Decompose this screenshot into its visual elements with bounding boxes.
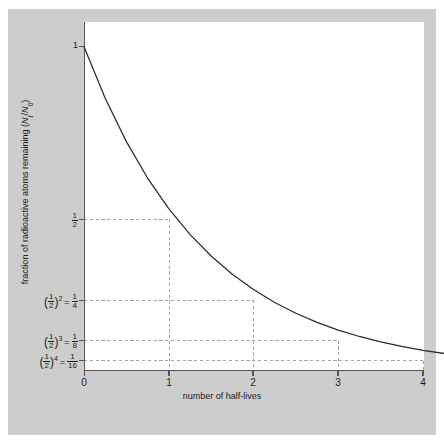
fraction-one-quarter: 1 4 [72, 293, 78, 310]
y-axis-title: fraction of radioactive atoms remaining … [20, 27, 32, 357]
figure-canvas: 1 1 2 ( 1 2 ) 2 = 1 4 ( 1 2 ) 3 = 1 8 [0, 0, 444, 444]
y-tick-label-sixteenth: ( 1 2 ) 4 = 1 16 [0, 353, 78, 370]
y-tick-marks [79, 47, 84, 361]
x-tick-label-1: 1 [157, 377, 181, 388]
y-tick-label-eighth: ( 1 2 ) 3 = 1 8 [0, 333, 78, 350]
fraction-base-2: 1 2 [48, 293, 54, 310]
fraction-base-3: 1 2 [48, 333, 54, 350]
equals-sign-4: = [58, 357, 67, 367]
y-axis-title-text: fraction of radioactive atoms remaining … [20, 124, 30, 284]
y-axis-title-N-t: N [20, 118, 30, 125]
x-tick-marks [85, 371, 424, 376]
y-tick-label-quarter: ( 1 2 ) 2 = 1 4 [0, 293, 78, 310]
equals-sign-3: = [62, 337, 71, 347]
exponent-2: 2 [58, 295, 62, 302]
decay-curve [84, 47, 444, 354]
x-tick-label-0: 0 [72, 377, 96, 388]
x-axis-title: number of half-lives [0, 391, 444, 401]
y-tick-label-1: 1 [0, 40, 78, 50]
fraction-one-eighth: 1 8 [72, 333, 78, 350]
y-axis-title-sub-t: t [27, 116, 34, 118]
y-axis-title-N-0: N [20, 107, 30, 114]
exponent-3: 3 [58, 335, 62, 342]
fraction-base-4: 1 2 [43, 353, 49, 370]
y-tick-label-half: 1 2 [0, 212, 78, 229]
axes [84, 22, 424, 371]
y-axis-title-sub-0: 0 [27, 103, 34, 107]
x-tick-label-3: 3 [326, 377, 350, 388]
gridlines [84, 219, 423, 370]
fraction-one-sixteenth: 1 16 [67, 353, 78, 370]
exponent-4: 4 [54, 355, 58, 362]
x-tick-label-2: 2 [241, 377, 265, 388]
fraction-one-half: 1 2 [72, 212, 78, 229]
equals-sign-2: = [62, 297, 71, 307]
x-tick-label-4: 4 [411, 377, 435, 388]
